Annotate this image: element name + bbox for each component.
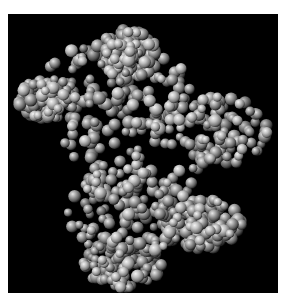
atom-sphere (70, 92, 80, 102)
atom-sphere (99, 161, 108, 170)
atom-sphere (163, 226, 175, 238)
atom-sphere (217, 131, 227, 141)
atom-sphere (83, 204, 93, 214)
atom-sphere (175, 202, 186, 213)
atom-sphere (209, 114, 222, 127)
atom-sphere (197, 94, 208, 105)
atom-sphere (195, 235, 205, 245)
atom-sphere (107, 68, 118, 79)
atom-sphere (49, 58, 60, 69)
atom-sphere (94, 187, 107, 200)
atom-sphere (107, 78, 117, 88)
atom-sphere (98, 256, 107, 265)
atom-sphere (112, 87, 125, 100)
atom-sphere (225, 137, 236, 148)
atom-sphere (165, 125, 174, 134)
atom-sphere (111, 232, 123, 244)
atom-sphere (86, 100, 94, 108)
atom-sphere (122, 128, 130, 136)
atom-sphere (123, 164, 133, 174)
atom-sphere (108, 194, 119, 205)
atom-sphere (122, 69, 130, 77)
atom-sphere (245, 107, 255, 117)
atom-sphere (78, 56, 88, 66)
atom-sphere (144, 95, 156, 107)
atom-sphere (131, 270, 144, 283)
atom-sphere (18, 84, 30, 96)
atom-sphere (206, 154, 216, 164)
atom-sphere (109, 137, 121, 149)
atom-sphere (232, 115, 242, 125)
atom-sphere (79, 135, 91, 147)
atom-sphere (202, 136, 210, 144)
atom-sphere (116, 77, 125, 86)
atom-sphere (83, 185, 92, 194)
atom-sphere (75, 221, 83, 229)
atom-sphere (86, 75, 95, 84)
atom-sphere (150, 223, 158, 231)
atom-sphere (186, 177, 198, 189)
atom-sphere (189, 164, 198, 173)
atom-sphere (85, 151, 97, 163)
atom-sphere (125, 236, 134, 245)
atom-sphere (173, 165, 185, 177)
atom-sphere (238, 135, 248, 145)
atom-sphere (137, 203, 147, 213)
atom-sphere (235, 99, 245, 109)
atom-sphere (190, 221, 203, 234)
atom-sphere (131, 117, 142, 128)
atom-sphere (123, 27, 133, 37)
atom-sphere (134, 237, 147, 250)
atom-sphere (41, 87, 50, 96)
atom-sphere (79, 44, 88, 53)
atom-sphere (80, 261, 90, 271)
atom-sphere (96, 206, 106, 216)
molecule-viewport (8, 14, 278, 293)
atom-sphere (205, 225, 216, 236)
atom-sphere (193, 211, 202, 220)
atom-sphere (13, 98, 26, 111)
atom-sphere (116, 250, 124, 258)
atom-sphere (155, 259, 167, 271)
atom-sphere (167, 74, 179, 86)
atom-sphere (245, 127, 255, 137)
atom-sphere (214, 198, 222, 206)
atom-sphere (132, 221, 144, 233)
atom-sphere (226, 230, 234, 238)
atom-sphere (68, 65, 77, 74)
atom-sphere (154, 189, 164, 199)
atom-sphere (138, 167, 149, 178)
atom-sphere (198, 105, 206, 113)
atom-sphere (213, 93, 222, 102)
atom-sphere (92, 267, 101, 276)
atom-sphere (90, 118, 100, 128)
atom-sphere (157, 75, 165, 83)
atom-sphere (146, 176, 157, 187)
atom-sphere (184, 84, 194, 94)
atom-sphere (151, 122, 161, 132)
atom-sphere (187, 112, 198, 123)
atom-sphere (163, 178, 171, 186)
atom-sphere (222, 152, 231, 161)
atom-sphere (87, 226, 96, 235)
atom-sphere (167, 139, 177, 149)
atom-sphere (91, 178, 100, 187)
atom-sphere (173, 114, 185, 126)
atom-sphere (96, 242, 105, 251)
atom-sphere (93, 92, 106, 105)
atom-sphere (65, 44, 78, 57)
atom-sphere (184, 139, 195, 150)
protein-space-filling-model (8, 14, 278, 293)
atom-sphere (54, 104, 63, 113)
atom-sphere (143, 38, 155, 50)
atom-sphere (69, 152, 79, 162)
atom-sphere (64, 209, 72, 217)
atom-sphere (93, 170, 101, 178)
atom-sphere (123, 182, 134, 193)
atom-sphere (168, 91, 180, 103)
atom-sphere (118, 267, 128, 277)
atom-sphere (136, 69, 148, 81)
atom-sphere (114, 155, 126, 167)
atom-sphere (110, 54, 120, 64)
atom-sphere (262, 127, 273, 138)
